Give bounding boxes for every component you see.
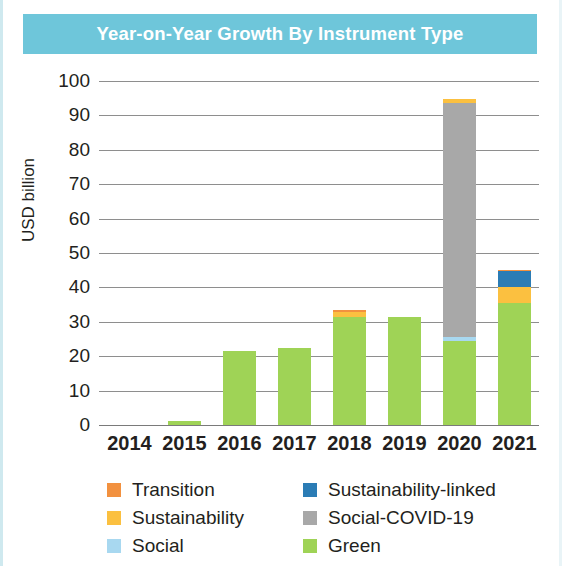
bar-segment[interactable] [223, 351, 256, 425]
stacked-bar[interactable] [333, 310, 366, 425]
x-axis-tick-label: 2021 [487, 432, 542, 455]
x-axis-tick-label: 2016 [212, 432, 267, 455]
legend-swatch-icon [107, 539, 121, 553]
bar-slot [487, 81, 542, 425]
legend-item[interactable]: Sustainability [107, 504, 244, 532]
bar-segment[interactable] [168, 421, 201, 425]
bar-slot [212, 81, 267, 425]
legend-swatch-icon [107, 483, 121, 497]
bar-slot [267, 81, 322, 425]
y-axis-tick-label: 100 [58, 70, 90, 92]
page-title: Year-on-Year Growth By Instrument Type [96, 23, 463, 45]
y-axis-tick-label: 20 [69, 345, 90, 367]
bar-segment[interactable] [443, 341, 476, 425]
bar-slot [432, 81, 487, 425]
legend-label: Social [132, 535, 184, 557]
legend-label: Social-COVID-19 [328, 507, 474, 529]
bar-segment[interactable] [333, 317, 366, 425]
y-axis-tick-label: 60 [69, 208, 90, 230]
legend-swatch-icon [303, 483, 317, 497]
legend-label: Transition [132, 479, 215, 501]
x-axis-tick-label: 2017 [267, 432, 322, 455]
y-axis-tick-label: 10 [69, 380, 90, 402]
bar-segment[interactable] [498, 303, 531, 425]
legend-item[interactable]: Social-COVID-19 [303, 504, 496, 532]
bar-slot [377, 81, 432, 425]
bar-segment[interactable] [498, 287, 531, 302]
legend-swatch-icon [303, 511, 317, 525]
stacked-bar[interactable] [388, 317, 421, 425]
stacked-bar[interactable] [443, 99, 476, 425]
bar-segment[interactable] [498, 271, 531, 288]
y-axis-tick-label: 80 [69, 139, 90, 161]
legend-item[interactable]: Sustainability-linked [303, 476, 496, 504]
y-axis-tick-label: 30 [69, 311, 90, 333]
stacked-bar[interactable] [498, 270, 531, 425]
stacked-bar[interactable] [278, 348, 311, 425]
plot-canvas: 0102030405060708090100 20142015201620172… [99, 60, 539, 446]
bar-segment[interactable] [278, 348, 311, 425]
legend-column-left: TransitionSustainabilitySocial [107, 476, 244, 560]
chart-legend: TransitionSustainabilitySocial Sustainab… [3, 476, 562, 562]
y-axis-tick-label: 0 [79, 414, 90, 436]
bar-slot [102, 81, 157, 425]
x-axis-tick-label: 2015 [157, 432, 212, 455]
chart-title-band: Year-on-Year Growth By Instrument Type [23, 14, 537, 54]
y-axis-tick-label: 90 [69, 104, 90, 126]
legend-swatch-icon [107, 511, 121, 525]
bar-segment[interactable] [388, 317, 421, 425]
x-axis-tick-label: 2019 [377, 432, 432, 455]
gridline [99, 425, 539, 426]
y-axis-tick-label: 40 [69, 276, 90, 298]
x-axis-tick-label: 2020 [432, 432, 487, 455]
legend-label: Sustainability [132, 507, 244, 529]
bar-slot [322, 81, 377, 425]
legend-item[interactable]: Green [303, 532, 496, 560]
y-axis-tick-label: 50 [69, 242, 90, 264]
bar-segment[interactable] [443, 103, 476, 337]
legend-label: Green [328, 535, 381, 557]
chart-figure: Year-on-Year Growth By Instrument Type U… [0, 0, 562, 566]
x-axis-tick-label: 2014 [102, 432, 157, 455]
legend-item[interactable]: Transition [107, 476, 244, 504]
bar-slot [157, 81, 212, 425]
y-axis-label: USD billion [19, 130, 39, 270]
y-axis-tick-label: 70 [69, 173, 90, 195]
legend-column-right: Sustainability-linkedSocial-COVID-19Gree… [303, 476, 496, 560]
legend-item[interactable]: Social [107, 532, 244, 560]
stacked-bar[interactable] [168, 421, 201, 425]
plot-area: USD billion 0102030405060708090100 20142… [3, 60, 562, 470]
stacked-bar[interactable] [223, 351, 256, 425]
legend-swatch-icon [303, 539, 317, 553]
legend-label: Sustainability-linked [328, 479, 496, 501]
x-axis-tick-label: 2018 [322, 432, 377, 455]
